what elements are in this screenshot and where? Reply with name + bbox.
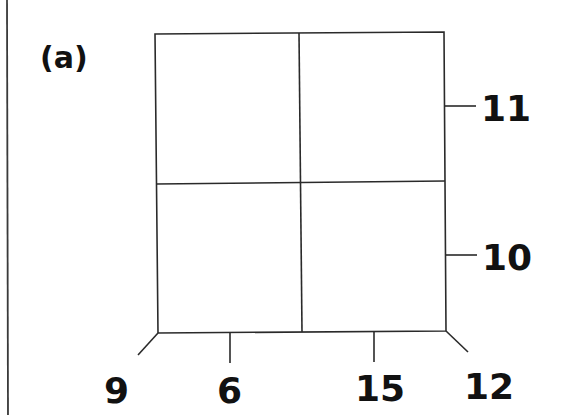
label-right-upper: 11 (481, 88, 531, 129)
grid-diagram: (a) 11 10 9 6 15 12 (0, 0, 563, 415)
label-bottom-far-right: 12 (464, 366, 514, 407)
page-edge-line (7, 0, 8, 415)
label-bottom-far-left: 9 (104, 370, 129, 411)
panel-label: (a) (40, 40, 88, 75)
label-right-lower: 10 (482, 237, 532, 278)
label-bottom-left: 6 (217, 370, 242, 411)
tick-diagonal-left (138, 333, 158, 355)
label-bottom-right: 15 (355, 368, 405, 409)
tick-diagonal-right (446, 331, 468, 352)
